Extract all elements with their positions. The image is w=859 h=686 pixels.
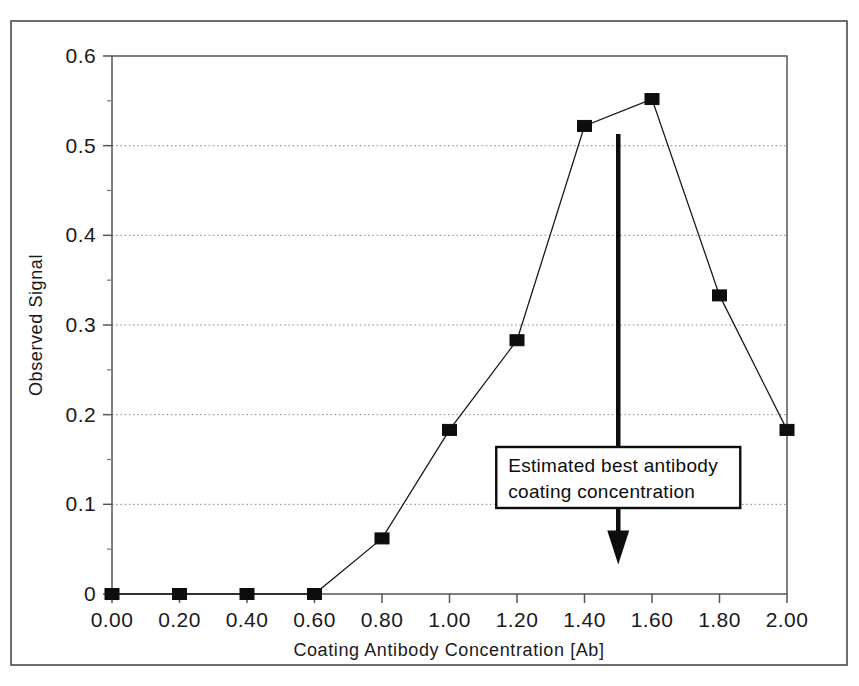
data-point-marker: [375, 533, 389, 544]
y-tick-label-0.5: 0.5: [66, 134, 96, 157]
y-axis-title: Observed Signal: [26, 254, 46, 396]
data-point-marker: [443, 424, 457, 435]
x-tick-label-0.60: 0.60: [293, 608, 335, 631]
x-tick-label-1.00: 1.00: [428, 608, 470, 631]
data-point-marker: [578, 120, 592, 131]
x-tick-label-0.80: 0.80: [361, 608, 403, 631]
data-point-marker: [173, 589, 187, 600]
x-tick-label-1.80: 1.80: [698, 608, 740, 631]
x-tick-label-1.40: 1.40: [563, 608, 605, 631]
data-point-marker: [645, 94, 659, 105]
x-axis-title: Coating Antibody Concentration [Ab]: [293, 640, 604, 660]
x-tick-label-0.00: 0.00: [91, 608, 133, 631]
data-point-marker: [510, 335, 524, 346]
y-tick-label-0.1: 0.1: [66, 492, 96, 515]
figure-background: [0, 0, 859, 686]
annotation-text-line1: Estimated best antibody: [508, 455, 718, 476]
x-tick-label-0.40: 0.40: [226, 608, 268, 631]
x-tick-label-2.00: 2.00: [766, 608, 808, 631]
y-tick-label-0: 0: [84, 582, 96, 605]
y-tick-label-0.6: 0.6: [66, 44, 96, 67]
data-point-marker: [713, 290, 727, 301]
data-point-marker: [308, 589, 322, 600]
figure-root: 00.10.20.30.40.50.6 0.000.200.400.600.80…: [0, 0, 859, 686]
x-tick-label-0.20: 0.20: [158, 608, 200, 631]
y-tick-label-0.3: 0.3: [66, 313, 96, 336]
y-tick-label-0.4: 0.4: [66, 223, 96, 246]
data-point-marker: [240, 589, 254, 600]
chart-canvas: 00.10.20.30.40.50.6 0.000.200.400.600.80…: [0, 0, 859, 686]
annotation-text-line2: coating concentration: [508, 481, 695, 502]
x-tick-label-1.20: 1.20: [496, 608, 538, 631]
data-point-marker: [780, 424, 794, 435]
data-point-marker: [105, 589, 119, 600]
y-tick-label-0.2: 0.2: [66, 403, 96, 426]
x-tick-label-1.60: 1.60: [631, 608, 673, 631]
